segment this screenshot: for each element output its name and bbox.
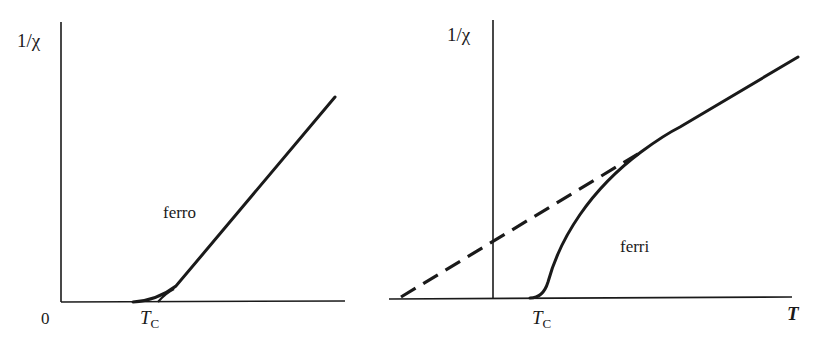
left-tc-label: TC bbox=[140, 307, 159, 331]
right-tc-label: TC bbox=[532, 307, 551, 331]
origin-label: 0 bbox=[41, 309, 50, 328]
ferri-extrapolation-dashed bbox=[401, 152, 641, 297]
left-panel: 1/χ 0 TC ferro bbox=[17, 22, 345, 331]
left-x-axis bbox=[61, 301, 345, 302]
ferri-curve-label: ferri bbox=[620, 237, 650, 256]
left-y-axis-label: 1/χ bbox=[17, 30, 41, 51]
ferri-curve bbox=[530, 57, 798, 298]
right-y-axis-label: 1/χ bbox=[447, 24, 471, 45]
susceptibility-diagram: 1/χ 0 TC ferro 1/χ TC T ferri bbox=[0, 0, 824, 345]
ferro-curve bbox=[133, 97, 335, 302]
temperature-axis-label: T bbox=[787, 303, 800, 324]
right-panel: 1/χ TC T ferri bbox=[389, 20, 800, 331]
right-x-axis bbox=[389, 297, 792, 299]
ferro-curve-label: ferro bbox=[163, 203, 196, 222]
